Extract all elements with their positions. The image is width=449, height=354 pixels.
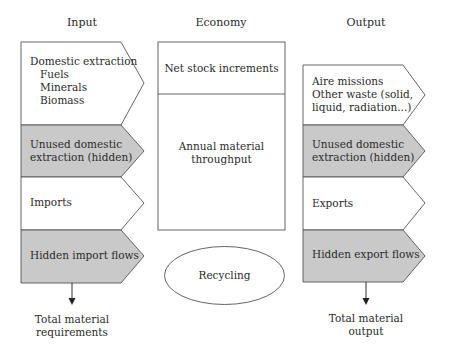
output-total-line-2: output <box>316 325 416 338</box>
header-output: Output <box>306 16 426 29</box>
header-input: Input <box>22 16 142 29</box>
input-total-line-2: requirements <box>22 326 122 339</box>
economy-throughput-line-2: throughput <box>158 153 285 166</box>
input-imports-label: Imports <box>30 196 72 209</box>
input-total-line-1: Total material <box>22 313 122 326</box>
input-unused-domestic-label-1: Unused domestic <box>30 138 122 151</box>
recycling-label: Recycling <box>164 269 285 282</box>
output-unused-domestic-label-2: extraction (hidden) <box>312 151 414 164</box>
output-emissions-line-1: Aire missions <box>312 75 383 88</box>
arrowhead-icon <box>363 298 370 305</box>
output-exports-label: Exports <box>312 197 353 210</box>
input-hidden-imports-label: Hidden import flows <box>30 249 139 262</box>
header-economy: Economy <box>161 16 281 29</box>
input-fuels-label: Fuels <box>40 68 69 81</box>
input-unused-domestic-label-2: extraction (hidden) <box>30 151 132 164</box>
input-domestic-extraction-label: Domestic extraction <box>30 55 137 68</box>
output-emissions-line-3: liquid, radiation...) <box>312 101 411 114</box>
output-total-line-1: Total material <box>316 312 416 325</box>
input-total-label: Total material requirements <box>22 313 122 339</box>
diagram-shapes <box>0 0 449 354</box>
output-unused-domestic-label-1: Unused domestic <box>312 138 404 151</box>
arrowhead-icon <box>69 298 76 305</box>
input-minerals-label: Minerals <box>40 81 87 94</box>
output-emissions-line-2: Other waste (solid, <box>312 88 413 101</box>
economy-net-stock-label: Net stock increments <box>158 62 285 75</box>
output-hidden-exports-label: Hidden export flows <box>312 248 420 261</box>
economy-throughput-line-1: Annual material <box>158 140 285 153</box>
output-total-label: Total material output <box>316 312 416 338</box>
input-biomass-label: Biomass <box>40 94 84 107</box>
economy-throughput-label: Annual material throughput <box>158 140 285 166</box>
